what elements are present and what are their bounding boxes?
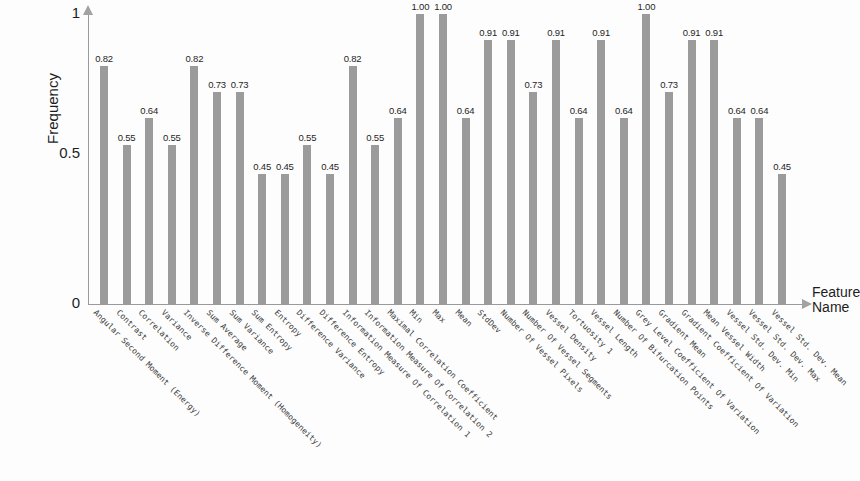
bar-group: 0.55 [365,14,385,304]
bar [281,174,289,305]
bar [620,118,628,304]
bar [394,118,402,304]
bar-value-label: 1.00 [626,1,666,12]
bar-group: 0.45 [772,14,792,304]
bar-group: 1.00 [433,14,453,304]
bar-group: 0.64 [727,14,747,304]
x-axis-line [88,304,804,305]
bar [733,118,741,304]
bar [575,118,583,304]
bar-series: 0.820.550.640.550.820.730.730.450.450.55… [88,14,804,304]
bar [190,66,198,304]
bar [371,145,379,305]
bar-group: 0.73 [659,14,679,304]
bar-group: 0.64 [569,14,589,304]
bar-group: 1.00 [410,14,430,304]
bar [123,145,131,305]
bar [552,40,560,304]
bar [145,118,153,304]
bar-group: 0.91 [501,14,521,304]
bar-group: 0.73 [523,14,543,304]
bar [688,40,696,304]
bar-group: 0.64 [139,14,159,304]
bar-group: 0.91 [704,14,724,304]
bar-value-label: 1.00 [423,1,463,12]
bar [100,66,108,304]
x-category-label: Number Of Vessel Pixels [498,308,584,394]
bar-group: 0.91 [478,14,498,304]
bar [258,174,266,305]
x-category-label: Min [408,308,425,325]
bar [665,92,673,304]
bar [349,66,357,304]
bar-group: 0.45 [275,14,295,304]
bar-group: 0.64 [749,14,769,304]
bar [755,118,763,304]
bar [213,92,221,304]
bar-group: 0.91 [591,14,611,304]
bar-group: 0.82 [94,14,114,304]
bar [597,40,605,304]
x-category-label: Max [431,308,448,325]
x-axis-category-labels: Angular Second Moment (Energy)ContrastCo… [88,308,852,481]
x-category-label: Mean [453,308,473,328]
y-tick-label-1: 1 [40,4,80,21]
bar-group: 0.55 [117,14,137,304]
bar-group: 0.91 [682,14,702,304]
bar-group: 0.64 [456,14,476,304]
y-tick-label-0: 0 [40,294,80,311]
bar-group: 0.73 [230,14,250,304]
bar-group: 0.91 [546,14,566,304]
bar-group: 0.73 [207,14,227,304]
y-axis-title: Frequency [44,49,61,169]
bar-group: 1.00 [636,14,656,304]
bar [642,14,650,304]
bar [778,174,786,305]
bar [710,40,718,304]
bar [439,14,447,304]
bar-group: 0.82 [184,14,204,304]
bar [236,92,244,304]
bar-group: 0.64 [388,14,408,304]
bar [326,174,334,305]
bar-value-label: 0.45 [762,161,802,172]
bar-group: 0.64 [614,14,634,304]
x-category-label: Sum Average [205,308,250,353]
bar [484,40,492,304]
bar [462,118,470,304]
bar [529,92,537,304]
bar-group: 0.55 [297,14,317,304]
bar [168,145,176,305]
bar-group: 0.82 [343,14,363,304]
bar-group: 0.45 [252,14,272,304]
bar [416,14,424,304]
